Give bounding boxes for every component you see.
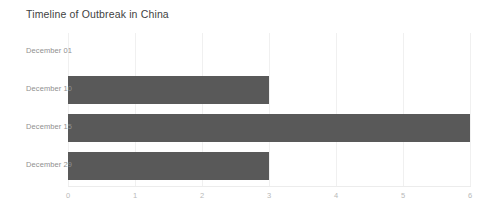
bar-row (68, 33, 470, 71)
bar (68, 152, 269, 180)
plot-area (68, 33, 470, 186)
gridline (470, 33, 471, 186)
y-axis-label: December 01 (26, 46, 72, 55)
x-axis-tick: 6 (468, 191, 472, 200)
x-axis-tick: 5 (401, 191, 405, 200)
y-axis-label: December 10 (26, 84, 72, 93)
bar-row (68, 109, 470, 147)
bar (68, 76, 269, 104)
x-axis-tick: 2 (200, 191, 204, 200)
bar-chart: Timeline of Outbreak in China December 0… (0, 0, 495, 221)
y-axis-label: December 29 (26, 160, 72, 169)
bar (68, 114, 470, 142)
chart-title: Timeline of Outbreak in China (26, 8, 169, 20)
bar-row (68, 147, 470, 185)
x-axis-line (68, 186, 471, 187)
x-axis-tick: 1 (133, 191, 137, 200)
bar-row (68, 71, 470, 109)
x-axis-tick: 3 (267, 191, 271, 200)
x-axis-tick: 4 (334, 191, 338, 200)
x-axis-tick: 0 (66, 191, 70, 200)
y-axis-label: December 15 (26, 122, 72, 131)
